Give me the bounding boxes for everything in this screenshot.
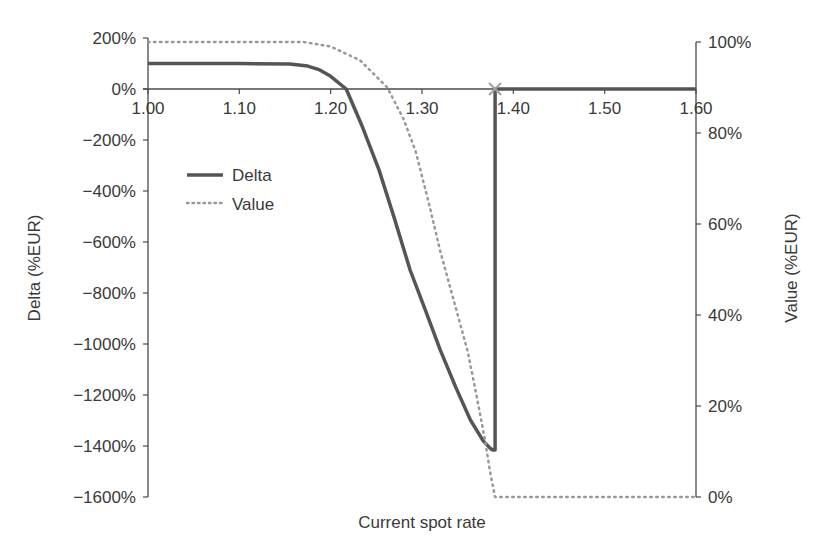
left-tick-label: −1600%	[73, 488, 136, 507]
left-tick-label: −600%	[83, 233, 136, 252]
x-tick-label: 1.50	[588, 99, 621, 118]
x-tick-label: 1.10	[223, 99, 256, 118]
x-axis: 1.001.101.201.301.401.501.60	[131, 89, 712, 118]
right-tick-label: 40%	[708, 306, 742, 325]
right-y-axis-title: Value (%EUR)	[782, 213, 801, 322]
chart: 200%0%−200%−400%−600%−800%−1000%−1200%−1…	[0, 0, 813, 553]
x-tick-label: 1.30	[405, 99, 438, 118]
legend: Delta Value	[187, 166, 274, 214]
left-tick-label: −1200%	[73, 386, 136, 405]
left-tick-label: −400%	[83, 182, 136, 201]
right-tick-label: 80%	[708, 124, 742, 143]
legend-delta-label: Delta	[232, 166, 272, 185]
left-y-axis-title: Delta (%EUR)	[25, 215, 44, 322]
left-tick-label: −1000%	[73, 335, 136, 354]
series-delta-line	[148, 64, 696, 451]
x-tick-label: 1.60	[679, 99, 712, 118]
x-tick-label: 1.20	[314, 99, 347, 118]
x-axis-title: Current spot rate	[358, 513, 486, 532]
left-tick-label: 200%	[93, 29, 136, 48]
left-tick-label: −200%	[83, 131, 136, 150]
right-tick-label: 100%	[708, 33, 751, 52]
left-tick-label: −800%	[83, 284, 136, 303]
x-tick-label: 1.00	[131, 99, 164, 118]
legend-value-label: Value	[232, 195, 274, 214]
x-tick-label: 1.40	[497, 99, 530, 118]
left-tick-label: 0%	[111, 80, 136, 99]
right-tick-label: 60%	[708, 215, 742, 234]
right-tick-label: 20%	[708, 397, 742, 416]
right-tick-label: 0%	[708, 488, 733, 507]
left-tick-label: −1400%	[73, 437, 136, 456]
